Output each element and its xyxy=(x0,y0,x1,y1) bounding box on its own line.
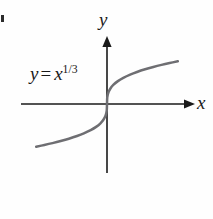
equation-exponent: 1/3 xyxy=(63,63,78,76)
y-axis-label: y xyxy=(99,10,107,29)
cube-root-function-figure: y x y=x1/3 xyxy=(0,0,213,219)
scan-artifact-speck xyxy=(1,15,4,22)
x-axis-arrowhead xyxy=(184,100,195,109)
plot-canvas xyxy=(0,0,213,219)
equation-operator: = xyxy=(40,63,51,84)
equation-lhs: y xyxy=(30,63,38,84)
y-axis-arrowhead xyxy=(102,36,111,47)
equation-base: x xyxy=(54,63,62,84)
curve-equation-label: y=x1/3 xyxy=(30,64,78,83)
x-axis-label: x xyxy=(197,93,205,112)
